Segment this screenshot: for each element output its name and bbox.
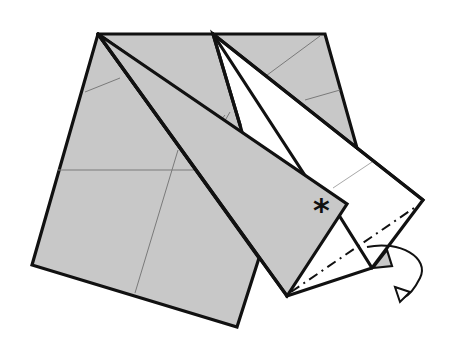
reference-asterisk: * bbox=[313, 194, 330, 226]
diagram-canvas bbox=[0, 0, 455, 344]
origami-diagram: * bbox=[0, 0, 455, 344]
arrowhead-icon bbox=[395, 287, 410, 302]
